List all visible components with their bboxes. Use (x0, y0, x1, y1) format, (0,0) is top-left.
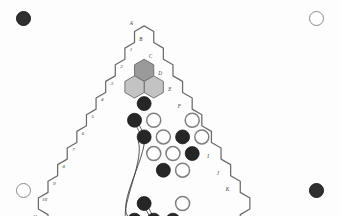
column-label: I (206, 153, 209, 159)
black-stone[interactable] (156, 163, 170, 177)
top-right-marker (309, 11, 324, 26)
column-label: K (225, 186, 230, 192)
black-stone[interactable] (137, 130, 151, 144)
board-border (38, 26, 249, 216)
board-figure: ABCDEFGHIJK1234567891011 (0, 0, 340, 216)
column-label: D (157, 70, 162, 76)
black-stone[interactable] (137, 97, 151, 111)
column-label: J (217, 170, 220, 176)
row-label: 7 (72, 147, 75, 152)
row-label: 2 (120, 64, 123, 69)
column-label: C (149, 53, 153, 59)
row-label: 3 (111, 81, 114, 86)
black-stone[interactable] (128, 213, 142, 216)
row-label: 9 (53, 181, 56, 186)
white-stone[interactable] (176, 163, 190, 177)
row-label: 4 (101, 97, 104, 102)
top-left-marker (16, 11, 31, 26)
row-label: 6 (82, 131, 85, 136)
bottom-left-marker (16, 183, 31, 198)
white-stone[interactable] (166, 147, 180, 161)
white-stone[interactable] (147, 147, 161, 161)
white-stone[interactable] (156, 130, 170, 144)
column-label: A (129, 20, 134, 26)
black-stone[interactable] (166, 213, 180, 216)
black-stone[interactable] (185, 147, 199, 161)
white-stone[interactable] (147, 113, 161, 127)
column-label: F (177, 103, 182, 109)
column-label: B (139, 36, 143, 42)
white-stone[interactable] (176, 197, 190, 211)
hex-board[interactable]: ABCDEFGHIJK1234567891011 (0, 0, 340, 216)
white-stone[interactable] (185, 113, 199, 127)
bottom-right-marker (309, 183, 324, 198)
row-label: 5 (91, 114, 94, 119)
black-stone[interactable] (137, 197, 151, 211)
black-stone[interactable] (176, 130, 190, 144)
column-label: E (167, 86, 172, 92)
white-stone[interactable] (195, 130, 209, 144)
black-stone[interactable] (128, 113, 142, 127)
row-label: 1 (130, 47, 133, 52)
row-label: 8 (63, 164, 66, 169)
row-label: 10 (42, 197, 48, 202)
row-label: 11 (33, 214, 38, 216)
